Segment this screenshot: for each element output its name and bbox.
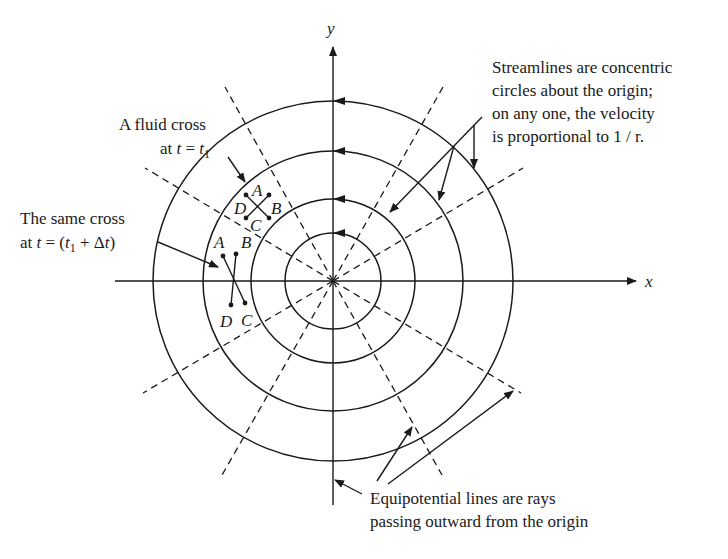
y-axis-label: y [325, 19, 335, 38]
streamlines-leader-main [390, 117, 482, 212]
cross-t2-label-a: A [213, 233, 225, 252]
cross-t1-label-a: A [251, 181, 263, 200]
flow-arrow-r2-icon [333, 195, 345, 203]
streamlines-text-line-3: on any one, the velocity [492, 104, 655, 123]
annotation-equipotential: Equipotential lines are rays passing out… [335, 391, 589, 531]
annotation-same-cross: The same cross at t = (t1 + Δt) [20, 209, 218, 267]
cross-t1-point-a [244, 193, 249, 198]
ray-150 [145, 168, 333, 281]
equipotential-text-line-1: Equipotential lines are rays [370, 489, 556, 508]
streamlines-text-line-4: is proportional to 1 / r. [492, 127, 644, 146]
ray-240 [222, 281, 333, 475]
fluid-cross-t2: A B C D [213, 233, 253, 331]
cross-t2-point-d [229, 303, 234, 308]
equipotential-text-line-2: passing outward from the origin [370, 512, 589, 531]
fluid-cross-title: A fluid cross [119, 115, 206, 134]
ray-30 [333, 168, 523, 281]
cross-t1-label-d: D [233, 199, 247, 218]
cross-t2-label-c: C [241, 311, 253, 330]
cross-t2-point-c [243, 301, 248, 306]
annotation-streamlines: Streamlines are concentric circles about… [390, 58, 673, 212]
fluid-cross-leader-arrow [228, 157, 245, 182]
flow-direction-arrows [333, 97, 345, 237]
streamlines-text-line-1: Streamlines are concentric [492, 58, 673, 77]
streamlines-text-line-2: circles about the origin; [492, 81, 653, 100]
ray-210 [143, 281, 333, 393]
ray-60 [333, 87, 443, 281]
annotation-fluid-cross-t1: A fluid cross at t = t1 [119, 115, 245, 182]
x-axis-label: x [644, 272, 653, 291]
flow-arrow-r4-icon [333, 97, 345, 105]
flow-arrow-r3-icon [333, 147, 345, 155]
flow-arrow-r1-icon [333, 229, 345, 237]
cross-t1-label-b: B [271, 199, 282, 218]
same-cross-time: at t = (t1 + Δt) [20, 233, 115, 255]
cross-t1-point-b [267, 193, 272, 198]
cross-t2-point-b [234, 252, 239, 257]
cross-t2-point-a [221, 254, 226, 259]
same-cross-title: The same cross [20, 209, 125, 228]
same-cross-leader-arrow [158, 242, 218, 267]
equipotential-leader-ray330 [388, 391, 513, 484]
fluid-cross-time: at t = t1 [160, 139, 210, 161]
cross-t1-label-c: C [250, 216, 262, 235]
cross-t2-label-b: B [241, 233, 252, 252]
cross-t2-arm-bd [231, 254, 236, 305]
cross-t2-label-d: D [219, 312, 233, 331]
potential-vortex-diagram: x y A B C D A B C D A fluid cross at t =… [0, 0, 728, 559]
ray-330 [333, 281, 521, 393]
equipotential-leader-yaxis [335, 480, 362, 494]
ray-300 [333, 281, 442, 475]
